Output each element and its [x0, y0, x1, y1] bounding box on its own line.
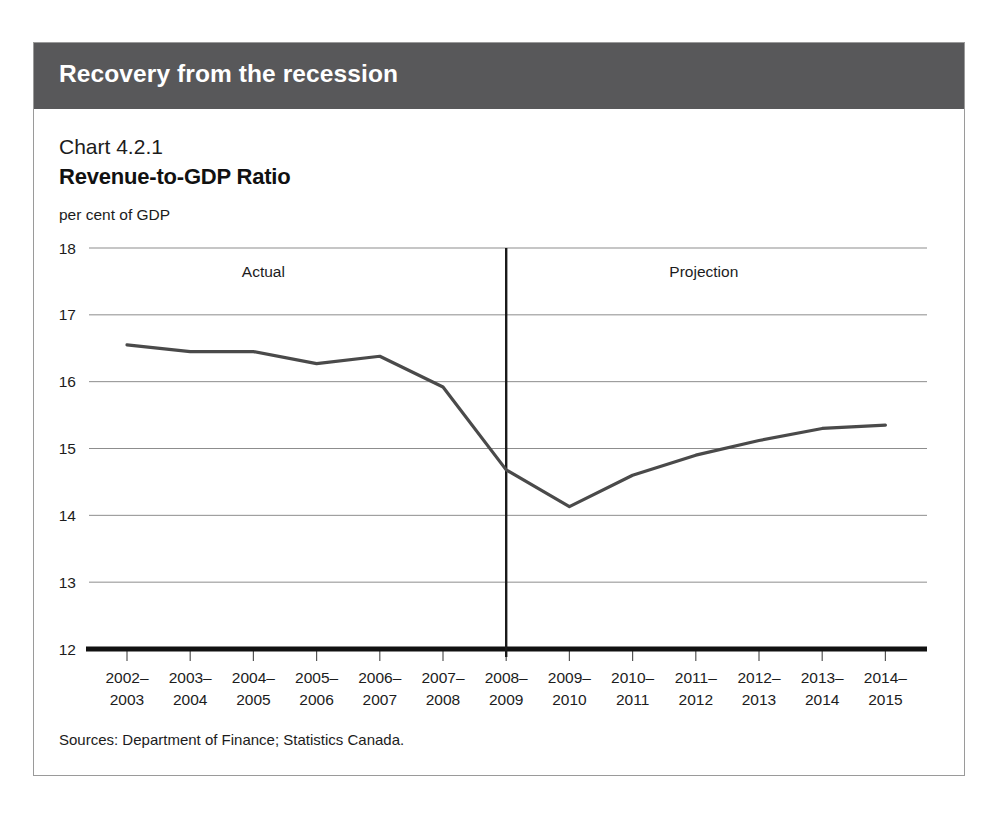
x-tick-label: 2005	[236, 691, 270, 708]
chart-card: Recovery from the recession Chart 4.2.1 …	[33, 42, 965, 776]
x-tick-labels: 2002–20032003–20042004–20052005–20062006…	[105, 669, 907, 708]
y-gridlines	[89, 248, 927, 582]
y-tick-labels: 12131415161718	[59, 240, 77, 658]
x-tick-label: 2009	[489, 691, 523, 708]
x-tick-label: 2004–	[232, 669, 275, 686]
x-tick-label: 2004	[173, 691, 208, 708]
x-tick-label: 2014	[805, 691, 840, 708]
page-root: Recovery from the recession Chart 4.2.1 …	[0, 0, 990, 813]
x-tick-label: 2006–	[358, 669, 401, 686]
y-tick-label: 16	[59, 373, 76, 390]
annotation-actual: Actual	[242, 263, 285, 280]
source-note: Sources: Department of Finance; Statisti…	[59, 731, 404, 748]
x-tick-label: 2008–	[485, 669, 528, 686]
x-tick-label: 2015	[868, 691, 902, 708]
y-tick-label: 17	[59, 306, 76, 323]
x-tick-label: 2007	[363, 691, 397, 708]
y-tick-label: 14	[59, 507, 77, 524]
x-tick-label: 2005–	[295, 669, 338, 686]
x-tick-label: 2010–	[611, 669, 654, 686]
annotation-projection: Projection	[669, 263, 738, 280]
x-tick-label: 2008	[426, 691, 460, 708]
x-tick-label: 2002–	[105, 669, 148, 686]
y-tick-label: 13	[59, 574, 76, 591]
x-tick-label: 2013	[742, 691, 776, 708]
line-chart: 12131415161718 2002–20032003–20042004–20…	[34, 43, 964, 775]
x-tick-label: 2007–	[421, 669, 464, 686]
x-tick-label: 2012–	[737, 669, 780, 686]
y-tick-label: 18	[59, 240, 76, 257]
x-tick-label: 2012	[679, 691, 713, 708]
x-tick-label: 2011	[616, 691, 649, 708]
y-tick-label: 15	[59, 440, 76, 457]
x-tick-label: 2011–	[675, 669, 717, 686]
x-tick-label: 2003–	[169, 669, 212, 686]
chart-svg: 12131415161718 2002–20032003–20042004–20…	[34, 43, 964, 775]
y-tick-label: 12	[59, 641, 76, 658]
x-tick-label: 2014–	[864, 669, 907, 686]
x-tick-label: 2013–	[801, 669, 844, 686]
x-tick-label: 2003	[110, 691, 144, 708]
x-tick-label: 2006	[299, 691, 333, 708]
x-tick-label: 2010	[552, 691, 587, 708]
x-tick-label: 2009–	[548, 669, 591, 686]
